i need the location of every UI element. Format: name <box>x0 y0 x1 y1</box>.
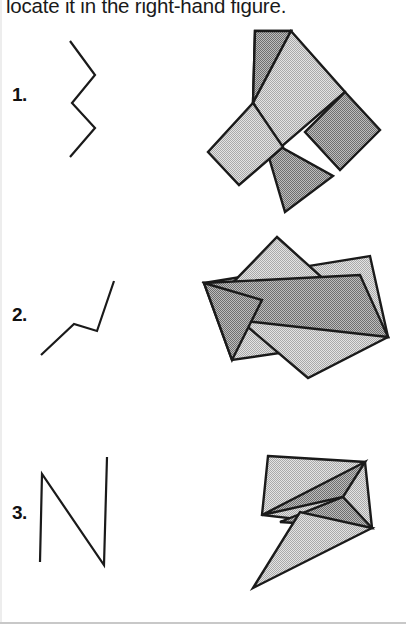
composite-shape-2-triangle-left-dark <box>204 283 262 360</box>
page-left-edge <box>0 0 2 624</box>
composite-shape-3-triangle-lower-dark <box>280 497 372 528</box>
figures-canvas <box>0 0 406 624</box>
target-figure-1-zigzag-polyline <box>70 41 95 157</box>
composite-shape-2-quad-narrow-dark <box>204 275 388 337</box>
instruction-text: locate it in the right-hand figure. <box>6 0 402 22</box>
target-figures-group <box>40 41 114 565</box>
target-figure-2-rising-zigzag-polyline <box>41 281 114 355</box>
composite-shape-1-square-upper-left-dark <box>253 31 291 103</box>
composite-shape-1-square-lower-left-light <box>208 103 283 185</box>
composite-shape-1-rect-lower-dark <box>253 103 333 212</box>
row-number-1: 1. <box>12 84 27 106</box>
composite-shape-2-quad-tall-light <box>216 237 388 378</box>
composite-figures-group <box>204 31 388 588</box>
composite-shape-2-quad-wide-light <box>204 256 388 360</box>
composite-shape-1-square-right-dark <box>305 92 380 170</box>
worksheet-page: locate it in the right-hand figure. 1. 2… <box>0 0 406 624</box>
composite-shape-1-square-top-dark <box>253 31 291 103</box>
composite-shape-3-triangle-upper-dark <box>262 462 365 515</box>
row-number-3: 3. <box>12 502 27 524</box>
row-number-2: 2. <box>12 304 27 326</box>
composite-shape-3-spike-triangle-light <box>253 512 372 588</box>
target-figure-3-n-shape-polyline <box>40 457 107 565</box>
composite-shape-1-rect-diagonal-light <box>253 31 345 147</box>
composite-shape-3-quad-main-light <box>262 456 372 528</box>
